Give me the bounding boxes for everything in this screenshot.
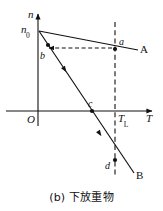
label-point-d: d [105, 161, 110, 171]
origin-label-O: O [27, 114, 35, 125]
axis-label-n: n [28, 9, 34, 20]
curve-b-line [39, 31, 134, 173]
point-b-dot [46, 43, 50, 47]
axis-label-T: T [146, 113, 152, 124]
figure-container: n n0 O T TL a b c d A B (b) 下放重物 [0, 0, 163, 211]
label-load-torque-TL: TL [118, 113, 129, 127]
label-curve-A: A [140, 44, 148, 55]
point-d-dot [113, 158, 117, 162]
point-a-dot [113, 47, 117, 51]
label-point-b: b [40, 51, 45, 61]
point-c-dot [90, 109, 94, 113]
label-point-c: c [88, 99, 92, 109]
label-n0-subscript: 0 [26, 31, 30, 40]
figure-caption: (b) 下放重物 [0, 188, 163, 204]
label-TL-subscript: L [124, 120, 129, 129]
label-curve-B: B [136, 170, 143, 181]
label-point-a: a [119, 37, 124, 47]
curve-b-direction-arrow-lower [96, 130, 103, 138]
label-n0: n0 [21, 24, 30, 38]
